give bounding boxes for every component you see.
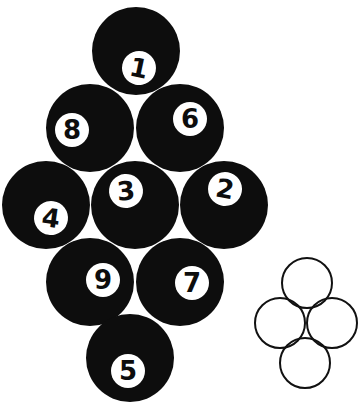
ball-number-label: 9 xyxy=(86,263,120,297)
ball-number-label: 8 xyxy=(55,113,89,147)
ball-number-label: 7 xyxy=(175,266,209,300)
empty-circle-bottom xyxy=(279,337,331,389)
ball-number-label: 6 xyxy=(173,102,207,136)
ball-number-label: 5 xyxy=(111,354,145,388)
